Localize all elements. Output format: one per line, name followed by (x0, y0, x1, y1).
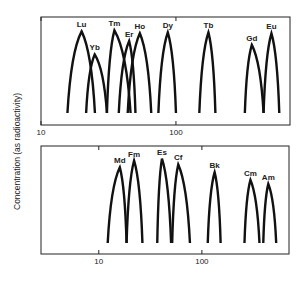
elution-chart: Concentration (as radioactivity) 10100Lu… (0, 0, 305, 284)
peak-label-dy: Dy (163, 21, 174, 30)
peak-label-cm: Cm (244, 169, 257, 178)
peak-label-bk: Bk (210, 161, 221, 170)
peak-label-tm: Tm (108, 19, 120, 28)
y-axis-label: Concentration (as radioactivity) (12, 93, 22, 210)
peak-label-md: Md (114, 156, 126, 165)
peak-tb (199, 32, 215, 113)
peak-label-es: Es (157, 148, 167, 157)
x-tick-label: 10 (37, 128, 46, 137)
peak-bk (208, 172, 221, 243)
peak-label-eu: Eu (266, 22, 276, 31)
peak-md (108, 167, 127, 243)
top-panel: 10100LuYbTmErHoDyTbGdEu (37, 17, 290, 137)
x-tick-label: 100 (195, 257, 209, 266)
peak-eu (264, 33, 280, 113)
peak-dy (158, 32, 176, 113)
peak-label-tb: Tb (204, 21, 214, 30)
plot-frame (41, 146, 289, 254)
peak-label-ho: Ho (135, 22, 146, 31)
peak-label-fm: Fm (128, 150, 140, 159)
peak-label-cf: Cf (174, 153, 183, 162)
peak-label-am: Am (262, 173, 275, 182)
peak-cm (244, 180, 259, 243)
peak-label-gd: Gd (246, 34, 257, 43)
bottom-panel: 10100MdFmEsCfBkCmAm (41, 146, 289, 266)
peak-label-lu: Lu (77, 20, 87, 29)
peak-label-yb: Yb (90, 43, 100, 52)
x-tick-label: 100 (169, 128, 183, 137)
peak-am (263, 184, 276, 243)
peak-fm (127, 161, 143, 243)
peak-es (157, 159, 171, 243)
peak-cf (172, 164, 190, 243)
peak-gd (245, 45, 264, 113)
x-tick-label: 10 (94, 257, 103, 266)
peak-label-er: Er (125, 30, 133, 39)
